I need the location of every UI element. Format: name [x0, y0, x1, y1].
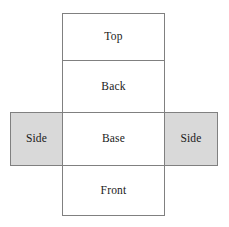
net-panel-label-base: Base: [102, 133, 125, 145]
net-panel-front: Front: [62, 165, 165, 216]
net-panel-label-top: Top: [104, 31, 122, 43]
net-panel-label-front: Front: [101, 185, 127, 197]
net-panel-label-back: Back: [101, 81, 125, 93]
net-panel-top: Top: [62, 13, 165, 61]
net-panel-label-side-left: Side: [26, 133, 47, 145]
net-panel-base: Base: [62, 112, 165, 166]
net-panel-label-side-right: Side: [180, 133, 201, 145]
box-net-diagram: Side Side Top Back Base Front: [0, 0, 229, 227]
net-panel-back: Back: [62, 60, 165, 113]
net-panel-side-left: Side: [10, 112, 63, 166]
net-panel-side-right: Side: [164, 112, 218, 166]
